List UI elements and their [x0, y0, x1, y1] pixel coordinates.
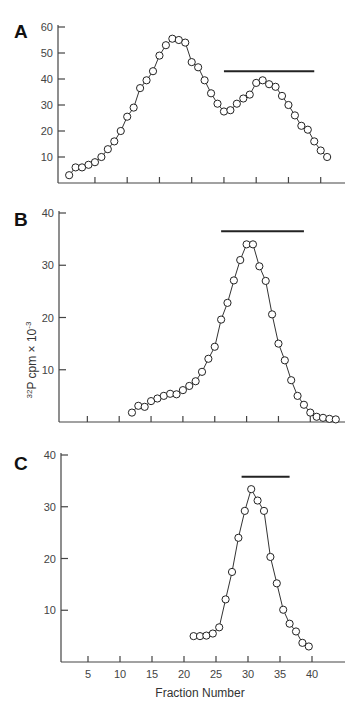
data-point [227, 107, 234, 114]
data-point [280, 606, 287, 613]
data-point [130, 104, 137, 111]
data-point [240, 95, 247, 102]
data-point [273, 580, 280, 587]
y-tick-label: 40 [41, 73, 53, 85]
x-axis-title: Fraction Number [155, 686, 244, 700]
x-tick-label: 35 [274, 668, 286, 680]
data-point [332, 416, 339, 423]
data-point [98, 153, 105, 160]
y-tick-label: 40 [44, 449, 56, 461]
y-tick-label: 20 [42, 312, 54, 324]
y-tick-label: 10 [41, 151, 53, 163]
data-point [262, 277, 269, 284]
x-tick-label: 25 [210, 668, 222, 680]
data-point [292, 628, 299, 635]
data-point [214, 100, 221, 107]
data-point [281, 357, 288, 364]
data-point [141, 403, 148, 410]
data-point [278, 92, 285, 99]
data-point [124, 113, 131, 120]
data-point [156, 52, 163, 59]
data-point [294, 392, 301, 399]
data-point [149, 68, 156, 75]
data-point [259, 77, 266, 84]
data-point [268, 311, 275, 318]
panel-a: A102030405060 [14, 21, 345, 183]
data-point [173, 391, 180, 398]
y-tick-label: 50 [41, 47, 53, 59]
y-tick-label: 40 [42, 207, 54, 219]
data-point [260, 507, 267, 514]
x-tick-label: 20 [178, 668, 190, 680]
data-point [128, 409, 135, 416]
data-point [256, 263, 263, 270]
data-point [143, 77, 150, 84]
data-point [267, 553, 274, 560]
data-point [241, 507, 248, 514]
data-point [205, 355, 212, 362]
x-tick-label: 10 [114, 668, 126, 680]
data-point [304, 126, 311, 133]
data-point [222, 596, 229, 603]
data-point [216, 624, 223, 631]
panel-label: B [14, 209, 28, 230]
data-point [288, 377, 295, 384]
data-point [169, 35, 176, 42]
data-point [298, 122, 305, 129]
data-point [111, 138, 118, 145]
data-point [300, 401, 307, 408]
data-point [218, 316, 225, 323]
x-tick-label: 5 [85, 668, 91, 680]
data-point [117, 127, 124, 134]
data-point [237, 256, 244, 263]
y-tick-label: 30 [42, 259, 54, 271]
data-point [307, 409, 314, 416]
x-tick-label: 30 [242, 668, 254, 680]
data-point [286, 620, 293, 627]
data-point [207, 90, 214, 97]
x-tick-label: 15 [146, 668, 158, 680]
y-tick-label: 10 [42, 364, 54, 376]
data-point [275, 340, 282, 347]
data-point [254, 497, 261, 504]
data-point [249, 241, 256, 248]
data-point [198, 368, 205, 375]
data-point [246, 91, 253, 98]
data-point [317, 147, 324, 154]
data-point [66, 172, 73, 179]
data-point [186, 382, 193, 389]
data-point [224, 299, 231, 306]
data-point [104, 146, 111, 153]
data-point [211, 343, 218, 350]
data-point [192, 378, 199, 385]
data-point [182, 39, 189, 46]
panel-c: C10203040510152025303540 [14, 449, 345, 680]
y-tick-label: 60 [41, 21, 53, 33]
data-point [209, 630, 216, 637]
y-tick-label: 20 [44, 553, 56, 565]
data-point [137, 85, 144, 92]
data-point [91, 159, 98, 166]
figure-canvas: A102030405060B10203040C10203040510152025… [0, 0, 360, 714]
panel-label: A [14, 21, 28, 42]
panel-label: C [14, 453, 28, 474]
data-point [230, 277, 237, 284]
y-tick-label: 30 [41, 99, 53, 111]
data-point [195, 64, 202, 71]
data-point [220, 108, 227, 115]
data-point [324, 153, 331, 160]
y-tick-label: 10 [44, 604, 56, 616]
data-point [272, 83, 279, 90]
data-point [235, 534, 242, 541]
data-point [162, 42, 169, 49]
data-point [305, 643, 312, 650]
data-point [201, 77, 208, 84]
data-point [291, 112, 298, 119]
panel-b: B10203040 [14, 207, 345, 423]
x-tick-label: 40 [306, 668, 318, 680]
data-point [228, 568, 235, 575]
data-point [285, 101, 292, 108]
y-axis-title: 32P cpm × 10-3 [24, 321, 39, 398]
data-point [311, 138, 318, 145]
data-point [233, 100, 240, 107]
